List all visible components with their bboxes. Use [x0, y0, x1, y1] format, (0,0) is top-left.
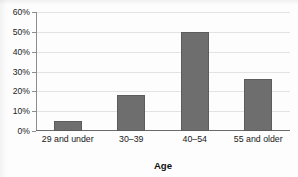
y-axis-tick-label: 20%	[13, 86, 30, 96]
y-axis-tick	[32, 131, 36, 132]
x-axis-title: Age	[36, 160, 290, 171]
y-axis-tick-label: 10%	[13, 106, 30, 116]
x-axis-tick-label: 29 and under	[36, 134, 100, 145]
x-axis-tick-label: 30–39	[99, 134, 163, 145]
bar	[244, 79, 272, 131]
x-axis-tick-labels: 29 and under30–3940–5455 and older	[36, 134, 290, 160]
bar-slot	[100, 12, 164, 131]
y-axis-tick-label: 40%	[13, 47, 30, 57]
bar-slot	[227, 12, 291, 131]
plot-area: 0%10%20%30%40%50%60%	[36, 12, 290, 131]
bar-chart: 0%10%20%30%40%50%60% 29 and under30–3940…	[0, 0, 298, 177]
x-axis-tick-label: 40–54	[163, 134, 227, 145]
bar	[117, 95, 145, 131]
bar-slot	[163, 12, 227, 131]
bar-series	[36, 12, 290, 131]
y-axis-tick	[32, 72, 36, 73]
y-axis-tick	[32, 52, 36, 53]
y-axis-tick-label: 30%	[13, 67, 30, 77]
y-axis-tick	[32, 12, 36, 13]
chart-title	[8, 0, 292, 3]
bar	[181, 32, 209, 131]
bar-slot	[36, 12, 100, 131]
bar	[54, 121, 82, 131]
y-axis-tick-label: 0%	[18, 126, 30, 136]
y-axis-tick-label: 50%	[13, 27, 30, 37]
x-axis-tick-label: 55 and older	[226, 134, 290, 145]
y-axis-tick	[32, 91, 36, 92]
y-axis-tick-label: 60%	[13, 7, 30, 17]
y-axis-tick	[32, 32, 36, 33]
y-axis-tick	[32, 111, 36, 112]
